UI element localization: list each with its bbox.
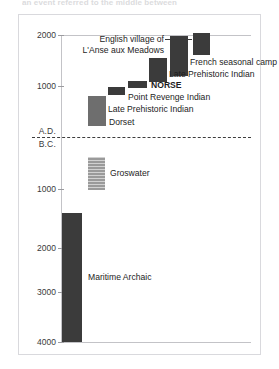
label-english-village-line1: English village of: [100, 34, 165, 44]
leader-line-english-village: [165, 39, 192, 40]
label-late-prehistoric-indian-lower: Late Prehistoric Indian: [108, 104, 194, 114]
label-dorset: Dorset: [109, 117, 134, 127]
label-groswater: Groswater: [110, 168, 150, 178]
bar-norse: [128, 81, 147, 88]
label-french-seasonal-camp: French seasonal camp: [190, 57, 277, 67]
timeline-chart: 2000 1000 A.D. B.C. 1000 2000 3000 4000 …: [0, 0, 279, 369]
era-divider-dashed-line: [32, 137, 251, 138]
bar-point-revenge-indian: [108, 87, 125, 95]
label-late-prehistoric-indian-upper: Late Prehistoric Indian: [169, 69, 255, 79]
y-tick-ad-1000: [58, 86, 64, 87]
y-label-bc-4000: 4000: [22, 338, 56, 347]
y-tick-bc-1000: [58, 189, 64, 190]
y-label-ad-era: A.D.: [22, 127, 56, 136]
bar-late-prehistoric-indian-lower: [88, 96, 106, 126]
label-point-revenge-indian: Point Revenge Indian: [128, 92, 210, 102]
bar-english-village: [193, 33, 210, 55]
chart-bottom-rule: [61, 342, 251, 343]
label-english-village-line2: L'Anse aux Meadows: [83, 45, 164, 55]
bar-groswater: [88, 157, 105, 190]
bar-maritime-archaic: [62, 213, 82, 342]
y-label-bc-2000: 2000: [22, 244, 56, 253]
label-norse: NORSE: [151, 80, 182, 90]
label-english-village: English village ofL'Anse aux Meadows: [64, 34, 164, 55]
label-maritime-archaic: Maritime Archaic: [88, 272, 152, 282]
y-label-ad-1000: 1000: [22, 82, 56, 91]
y-label-ad-2000: 2000: [22, 31, 56, 40]
bar-late-prehistoric-indian-upper: [149, 58, 167, 82]
y-label-bc-era: B.C.: [22, 140, 56, 149]
y-tick-bc-4000: [58, 342, 64, 343]
y-label-bc-3000: 3000: [22, 288, 56, 297]
y-label-bc-1000: 1000: [22, 185, 56, 194]
